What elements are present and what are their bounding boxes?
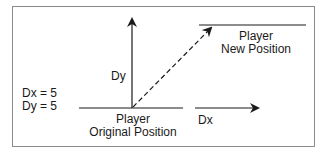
diagram-canvas: Dx = 5 Dy = 5 Dy Dx Player Original Posi… <box>0 0 327 153</box>
movement-vector-arrow-icon <box>133 28 211 107</box>
dy-value-label: Dy = 5 <box>22 100 57 113</box>
dx-axis-label: Dx <box>198 114 213 127</box>
new-position-label-line2: New Position <box>212 43 300 56</box>
original-position-label-line2: Original Position <box>83 126 183 139</box>
dy-axis-label: Dy <box>111 70 126 83</box>
